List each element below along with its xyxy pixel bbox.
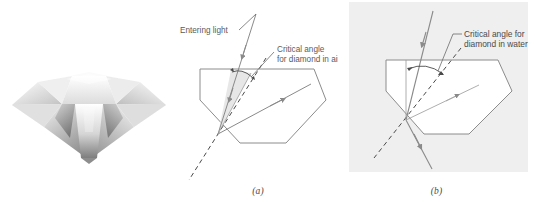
incoming-ray-arrow-a: [242, 45, 246, 58]
panel-b-caption: (b): [338, 186, 535, 196]
panel-a-diamond-in-air: Entering light Critical angle for diamon…: [178, 0, 338, 202]
diamond-illustration-panel: [0, 0, 178, 202]
critical-angle-label-line2-a: for diamond in air: [277, 55, 338, 64]
panel-b-diamond-in-water: Critical angle for diamond in water (b): [338, 0, 535, 202]
entering-light-label: Entering light: [180, 26, 229, 35]
figure-root: Entering light Critical angle for diamon…: [0, 0, 535, 202]
critical-angle-label-line1-a: Critical angle: [277, 45, 325, 54]
panel-b-svg: Critical angle for diamond in water: [338, 0, 535, 202]
panel-a-caption: (a): [178, 186, 338, 196]
diamond-illustration-svg: [0, 0, 178, 202]
panel-a-svg: Entering light Critical angle for diamon…: [178, 0, 338, 202]
critical-angle-label-line1-b: Critical angle for: [464, 29, 525, 39]
critical-angle-label-line2-b: diamond in water: [464, 39, 528, 49]
